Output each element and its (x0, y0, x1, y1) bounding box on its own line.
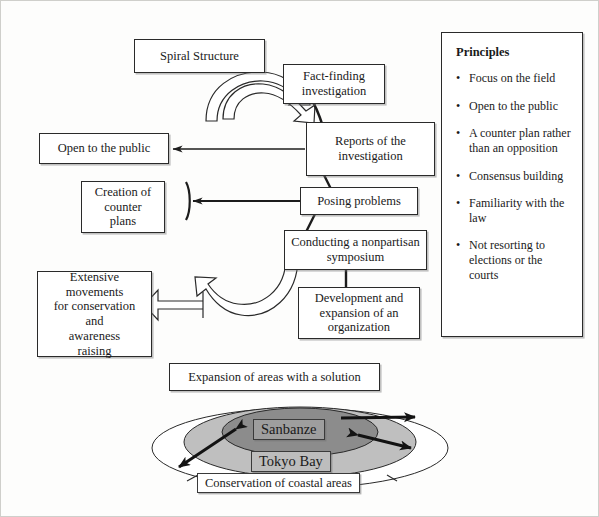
principle-item: • A counter plan rather than an oppositi… (454, 126, 572, 155)
principle-item: • Focus on the field (454, 71, 572, 86)
box-spiral-structure: Spiral Structure (134, 39, 265, 73)
label-conservation-text: Conservation of coastal areas (205, 476, 352, 491)
diagram-page: Spiral Structure Fact-findinginvestigati… (0, 0, 599, 517)
box-symposium-label: Conducting a nonpartisansymposium (286, 235, 424, 265)
box-extensive-movements: Extensivemovementsfor conservationandawa… (37, 271, 152, 357)
bullet-icon: • (456, 99, 460, 114)
box-conducting-nonpartisan-symposium: Conducting a nonpartisansymposium (284, 230, 427, 270)
label-tokyo-bay-text: Tokyo Bay (259, 453, 323, 470)
box-posing-problems-label: Posing problems (312, 194, 406, 209)
panel-principles: Principles • Focus on the field • Open t… (441, 32, 583, 337)
bracket-counter-plans (186, 182, 190, 220)
box-development-label: Development andexpansion of anorganizati… (310, 291, 409, 335)
bullet-icon: • (456, 71, 460, 86)
box-extensive-movements-label: Extensivemovementsfor conservationandawa… (49, 270, 141, 359)
box-posing-problems: Posing problems (300, 187, 418, 215)
principle-item: • Open to the public (454, 99, 572, 114)
principle-item-label: Focus on the field (469, 71, 555, 85)
principle-item: • Consensus building (454, 169, 572, 184)
box-reports-label: Reports of theinvestigation (330, 134, 411, 164)
principle-item-label: Familiarity with the law (469, 196, 564, 225)
label-sanbanze: Sanbanze (253, 419, 325, 440)
box-creation-of-counter-plans: Creation ofcounterplans (81, 181, 165, 233)
bullet-icon: • (456, 238, 460, 253)
box-reports-of-investigation: Reports of theinvestigation (306, 122, 435, 176)
box-fact-finding-label: Fact-findinginvestigation (297, 69, 372, 99)
principle-item-label: Not resorting to elections or the courts (469, 238, 545, 281)
expansion-arrow-top-right (341, 417, 415, 418)
panel-principles-title: Principles (456, 45, 572, 60)
bullet-icon: • (456, 169, 460, 184)
principle-item-label: Consensus building (469, 169, 563, 183)
box-expansion-of-areas: Expansion of areas with a solution (169, 363, 380, 391)
spiral-arrow-bottom (195, 257, 298, 315)
label-sanbanze-text: Sanbanze (261, 421, 317, 438)
bullet-icon: • (456, 196, 460, 211)
box-expansion-areas-label: Expansion of areas with a solution (183, 370, 366, 385)
principle-item-label: Open to the public (469, 99, 558, 113)
principle-item-label: A counter plan rather than an opposition (469, 126, 571, 155)
principle-item: • Not resorting to elections or the cour… (454, 238, 572, 282)
box-development-expansion-organization: Development andexpansion of anorganizati… (298, 287, 420, 339)
bullet-icon: • (456, 126, 460, 141)
box-fact-finding-investigation: Fact-findinginvestigation (283, 64, 385, 104)
label-conservation-of-coastal-areas: Conservation of coastal areas (197, 473, 360, 493)
box-counter-plans-label: Creation ofcounterplans (90, 185, 157, 229)
principle-item: • Familiarity with the law (454, 196, 572, 225)
box-spiral-structure-label: Spiral Structure (155, 49, 244, 64)
box-open-public-label: Open to the public (53, 141, 156, 156)
box-open-to-the-public: Open to the public (39, 133, 169, 164)
label-tokyo-bay: Tokyo Bay (251, 451, 331, 472)
principles-list: • Focus on the field • Open to the publi… (454, 71, 572, 282)
